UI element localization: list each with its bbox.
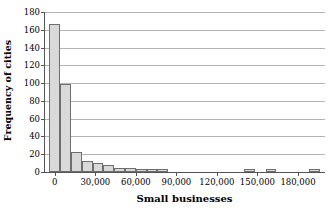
y-tick-label: 140 [24, 43, 40, 53]
x-tick-mark [257, 172, 258, 176]
y-tick-mark [41, 65, 44, 66]
histogram-bar [71, 152, 82, 172]
x-tick-mark [298, 172, 299, 176]
y-tick-mark [41, 136, 44, 137]
y-tick-label: 60 [29, 114, 40, 124]
histogram-chart: Frequency of cities 02040608010012014016… [0, 0, 329, 218]
y-tick-label: 80 [29, 96, 40, 106]
x-tick-label: 120,000 [199, 177, 234, 187]
histogram-bar [49, 24, 60, 172]
y-tick-mark [41, 83, 44, 84]
x-tick-label: 150,000 [240, 177, 275, 187]
y-tick-label: 0 [35, 167, 40, 177]
x-tick-label: 0 [52, 177, 57, 187]
y-tick-label: 180 [24, 7, 40, 17]
plot-area [44, 12, 325, 172]
histogram-bar [93, 163, 104, 172]
bar-series [44, 12, 325, 172]
y-tick-label: 40 [29, 131, 40, 141]
x-tick-label: 30,000 [80, 177, 110, 187]
x-tick-mark [217, 172, 218, 176]
histogram-bar [82, 161, 93, 172]
x-tick-mark [136, 172, 137, 176]
y-axis-tick-labels: 020406080100120140160180 [14, 12, 40, 172]
y-tick-mark [41, 30, 44, 31]
y-tick-label: 20 [29, 149, 40, 159]
y-tick-mark [41, 48, 44, 49]
histogram-bar [103, 165, 114, 172]
y-tick-mark [41, 101, 44, 102]
x-axis-title: Small businesses [44, 193, 325, 204]
y-tick-mark [41, 119, 44, 120]
x-tick-mark [176, 172, 177, 176]
y-axis-title-text: Frequency of cities [3, 39, 14, 140]
y-tick-label: 160 [24, 25, 40, 35]
y-tick-label: 100 [24, 78, 40, 88]
y-tick-mark [41, 154, 44, 155]
x-tick-label: 60,000 [121, 177, 151, 187]
x-tick-label: 180,000 [280, 177, 315, 187]
y-tick-label: 120 [24, 60, 40, 70]
x-tick-mark [95, 172, 96, 176]
histogram-bar [60, 84, 71, 172]
x-tick-mark [55, 172, 56, 176]
x-axis-ticks: 030,00060,00090,000120,000150,000180,000 [44, 172, 325, 192]
x-tick-label: 90,000 [162, 177, 192, 187]
y-tick-mark [41, 12, 44, 13]
